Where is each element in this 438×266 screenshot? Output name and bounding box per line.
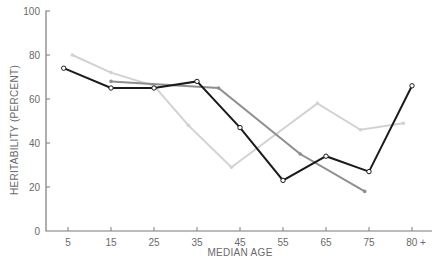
black-series (62, 66, 415, 183)
data-point-marker (359, 128, 363, 132)
x-tick-label: 55 (277, 237, 289, 248)
data-point-marker (298, 152, 302, 156)
y-tick-label: 60 (29, 94, 41, 105)
y-axis-title: HERITABILITY (PERCENT) (9, 65, 20, 195)
x-tick-label: 15 (105, 237, 117, 248)
data-point-marker (109, 86, 113, 90)
x-tick-label: 80 + (406, 237, 426, 248)
light-gray-series (71, 53, 406, 169)
data-point-marker (71, 53, 75, 57)
series-line (111, 81, 365, 191)
data-point-marker (152, 86, 156, 90)
line-chart: 02040608010051525354555657580 + MEDIAN A… (0, 0, 438, 266)
x-tick-label: 25 (148, 237, 160, 248)
data-point-marker (62, 66, 66, 70)
data-point-marker (109, 80, 113, 84)
x-tick-label: 75 (363, 237, 375, 248)
x-tick-label: 35 (191, 237, 203, 248)
x-axis-title: MEDIAN AGE (207, 247, 272, 258)
y-tick-label: 100 (23, 6, 40, 17)
y-tick-label: 20 (29, 182, 41, 193)
data-point-marker (195, 79, 199, 83)
x-tick-label: 65 (320, 237, 332, 248)
data-point-marker (281, 178, 285, 182)
data-point-marker (109, 71, 113, 75)
x-tick-label: 5 (65, 237, 71, 248)
data-point-marker (316, 102, 320, 106)
y-tick-label: 0 (34, 226, 40, 237)
data-point-marker (230, 165, 234, 169)
y-tick-label: 80 (29, 50, 41, 61)
data-point-marker (367, 169, 371, 173)
data-point-marker (324, 154, 328, 158)
axes: 02040608010051525354555657580 + (23, 6, 432, 249)
y-tick-label: 40 (29, 138, 41, 149)
data-point-marker (217, 86, 221, 90)
series-line (72, 55, 403, 167)
series-group (62, 53, 415, 193)
axis-lines (46, 11, 432, 231)
data-point-marker (238, 125, 242, 129)
data-point-marker (187, 124, 191, 128)
medium-gray-series (109, 80, 366, 194)
data-point-marker (410, 84, 414, 88)
data-point-marker (363, 190, 367, 194)
data-point-marker (402, 121, 406, 125)
